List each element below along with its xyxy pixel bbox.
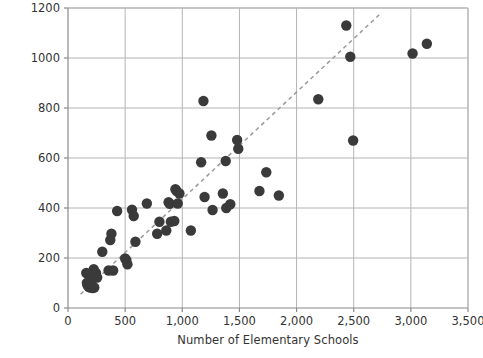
data-point: [130, 237, 140, 247]
y-tick-label: 600: [38, 151, 60, 165]
data-point: [254, 186, 264, 196]
data-point: [207, 205, 217, 215]
x-tick-label: 1,500: [223, 314, 256, 328]
data-point: [186, 225, 196, 235]
data-point: [199, 192, 209, 202]
y-tick-label: 400: [38, 201, 60, 215]
x-tick-label: 0: [64, 314, 71, 328]
data-point: [218, 188, 228, 198]
y-tick-label: 0: [53, 301, 60, 315]
data-point: [112, 206, 122, 216]
data-point: [198, 96, 208, 106]
data-point: [313, 94, 323, 104]
x-axis-title: Number of Elementary Schools: [68, 333, 468, 347]
data-point: [221, 156, 231, 166]
data-point: [206, 130, 216, 140]
data-point: [345, 52, 355, 62]
data-point: [142, 198, 152, 208]
data-point: [173, 198, 183, 208]
data-point: [274, 190, 284, 200]
x-axis-title-text: Number of Elementary Schools: [177, 333, 358, 347]
scatter-chart: 05001,0001,5002,0002,5003,0003,500 02004…: [0, 0, 483, 358]
data-point: [129, 211, 139, 221]
y-tick-label: 1200: [31, 1, 60, 15]
data-point: [108, 265, 118, 275]
y-tick-label: 200: [38, 251, 60, 265]
x-tick-label: 2,000: [280, 314, 313, 328]
data-point: [422, 39, 432, 49]
data-point: [261, 167, 271, 177]
x-tick-label: 3,500: [452, 314, 483, 328]
x-tick-label: 3,000: [394, 314, 427, 328]
plot-area-svg: 05001,0001,5002,0002,5003,0003,500 02004…: [0, 0, 483, 358]
data-point: [196, 157, 206, 167]
data-point: [97, 247, 107, 257]
data-point: [233, 144, 243, 154]
data-point: [407, 48, 417, 58]
data-point: [169, 216, 179, 226]
data-point: [89, 282, 99, 292]
data-point: [348, 135, 358, 145]
data-point: [341, 20, 351, 30]
data-point: [154, 217, 164, 227]
data-point: [152, 229, 162, 239]
data-point: [225, 199, 235, 209]
x-tick-label: 500: [114, 314, 136, 328]
data-point: [174, 188, 184, 198]
data-point: [106, 229, 116, 239]
y-tick-label: 1000: [31, 51, 60, 65]
data-point: [92, 272, 102, 282]
y-tick-label: 800: [38, 101, 60, 115]
x-tick-label: 2,500: [337, 314, 370, 328]
data-point: [122, 259, 132, 269]
data-point: [232, 135, 242, 145]
x-tick-label: 1,000: [166, 314, 199, 328]
